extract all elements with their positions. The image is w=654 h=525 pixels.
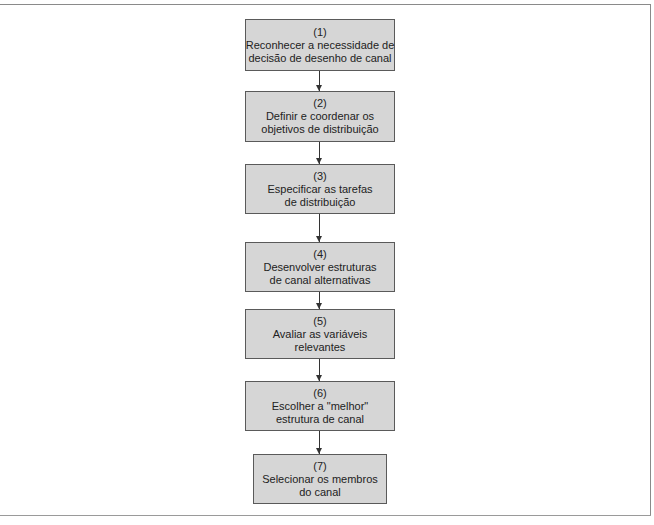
step-number: (3) — [313, 170, 326, 183]
step-text-line-1: Reconhecer a necessidade de — [246, 39, 395, 52]
step-text-line-2: de canal alternativas — [270, 274, 371, 287]
step-text-line-1: Especificar as tarefas — [267, 183, 372, 196]
step-text-line-1: Escolher a "melhor" — [272, 400, 368, 413]
step-text-line-1: Avaliar as variáveis — [273, 328, 368, 341]
step-text-line-2: objetivos de distribuição — [261, 123, 378, 136]
step-box-1: (1) Reconhecer a necessidade de decisão … — [245, 19, 395, 71]
step-text-line-2: do canal — [299, 486, 341, 499]
arrow-5-to-6 — [319, 359, 320, 381]
frame-bottom-border — [0, 515, 651, 516]
step-box-7: (7) Selecionar os membros do canal — [253, 454, 387, 504]
arrow-2-to-3 — [319, 142, 320, 164]
arrow-1-to-2 — [319, 71, 320, 91]
step-text-line-1: Desenvolver estruturas — [263, 261, 376, 274]
step-number: (6) — [313, 387, 326, 400]
step-text-line-2: estrutura de canal — [276, 413, 364, 426]
step-text-line-1: Definir e coordenar os — [266, 110, 374, 123]
frame-top-border — [0, 4, 651, 5]
step-box-5: (5) Avaliar as variáveis relevantes — [245, 309, 395, 359]
step-text-line-2: relevantes — [295, 341, 346, 354]
step-text-line-1: Selecionar os membros — [262, 473, 378, 486]
step-number: (5) — [313, 315, 326, 328]
step-box-3: (3) Especificar as tarefas de distribuiç… — [245, 164, 395, 214]
step-box-2: (2) Definir e coordenar os objetivos de … — [245, 91, 395, 142]
step-number: (4) — [313, 248, 326, 261]
step-text-line-2: de distribuição — [285, 196, 356, 209]
step-box-4: (4) Desenvolver estruturas de canal alte… — [245, 242, 395, 292]
step-number: (1) — [313, 26, 326, 39]
step-number: (2) — [313, 97, 326, 110]
frame-right-border — [650, 4, 651, 516]
arrow-4-to-5 — [319, 292, 320, 309]
arrow-6-to-7 — [319, 431, 320, 454]
step-number: (7) — [313, 460, 326, 473]
arrow-3-to-4 — [319, 214, 320, 242]
step-box-6: (6) Escolher a "melhor" estrutura de can… — [245, 381, 395, 431]
step-text-line-2: decisão de desenho de canal — [248, 52, 391, 65]
